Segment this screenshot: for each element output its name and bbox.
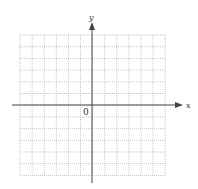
coordinate-plane: x y 0 — [0, 0, 198, 189]
y-axis-label: y — [88, 13, 94, 22]
x-axis-label: x — [186, 101, 191, 110]
y-axis-arrow-icon — [89, 22, 95, 30]
origin-label: 0 — [83, 107, 89, 117]
x-axis-arrow-icon — [175, 102, 183, 108]
